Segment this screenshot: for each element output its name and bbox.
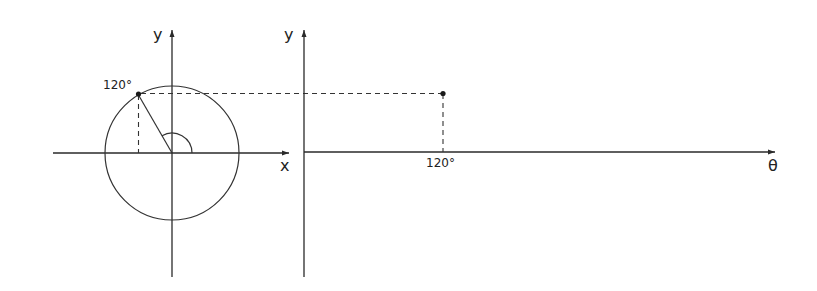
theta-tick-label: 120°	[426, 156, 455, 170]
sine-projection-diagram: 120° y x 120° y θ	[0, 0, 817, 291]
point-angle-label: 120°	[103, 78, 132, 92]
circle-point	[136, 91, 141, 96]
graph-point	[440, 91, 445, 96]
right-y-label: y	[284, 25, 293, 44]
radius-line	[139, 95, 173, 153]
theta-graph-panel: 120° y θ	[284, 25, 778, 277]
left-x-label: x	[280, 156, 289, 175]
unit-circle-panel: 120° y x	[53, 25, 289, 277]
left-y-label: y	[153, 25, 162, 44]
theta-label: θ	[768, 156, 778, 175]
